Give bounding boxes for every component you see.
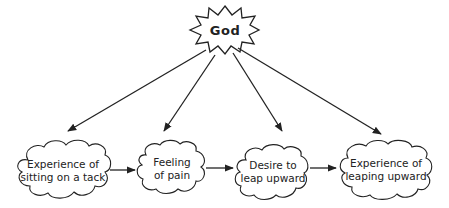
cloud-node-1-line1: Experience of: [21, 158, 106, 171]
cloud-node-1-label: Experience of sitting on a tack: [21, 158, 106, 184]
cloud-node-2-line1: Feeling: [153, 156, 191, 169]
cloud-node-4-line2: leaping upward: [345, 170, 426, 183]
arrow-god-to-n4: [238, 48, 381, 134]
cloud-node-4-line1: Experience of: [345, 157, 426, 170]
cloud-node-2-line2: of pain: [153, 169, 191, 182]
cloud-node-3-line2: leap upward: [241, 172, 306, 185]
arrow-god-to-n1: [68, 50, 206, 131]
cloud-node-3-line1: Desire to: [241, 159, 306, 172]
cloud-node-2-label: Feeling of pain: [153, 156, 191, 182]
arrow-god-to-n2: [164, 55, 215, 131]
cloud-node-4-label: Experience of leaping upward: [345, 157, 426, 183]
god-label: God: [210, 23, 240, 38]
cloud-node-3-label: Desire to leap upward: [241, 159, 306, 185]
arrow-god-to-n3: [233, 53, 282, 131]
cloud-node-1-line2: sitting on a tack: [21, 171, 106, 184]
god-arrows: [68, 48, 381, 134]
